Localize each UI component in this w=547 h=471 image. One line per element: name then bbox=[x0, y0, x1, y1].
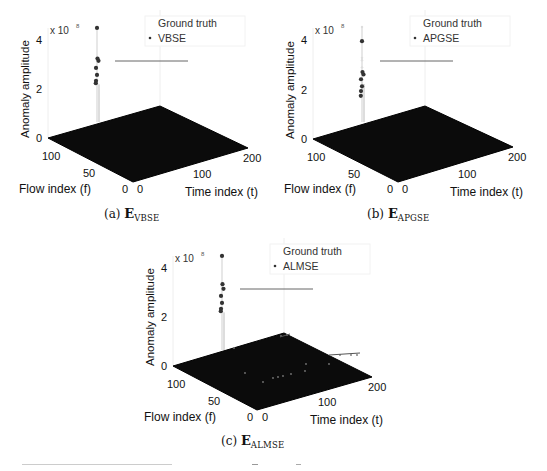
caption-c-prefix: (c) bbox=[221, 434, 237, 448]
z-axis-label: Anomaly amplitude bbox=[19, 40, 31, 138]
estimate-point bbox=[359, 89, 363, 93]
anomaly-plane bbox=[173, 333, 372, 410]
estimate-point bbox=[359, 94, 363, 98]
estimate-point bbox=[220, 301, 224, 305]
marker-dot-icon bbox=[149, 37, 152, 40]
legend-entry-estimate: ALMSE bbox=[283, 260, 319, 272]
z-tick-0: 0 bbox=[301, 133, 307, 145]
z-axis-label: Anomaly amplitude bbox=[144, 268, 156, 366]
time-tick-200: 200 bbox=[243, 152, 261, 164]
z-tick-2: 2 bbox=[161, 311, 167, 323]
caption-b: (b) EAPGSE bbox=[367, 206, 429, 223]
anomaly-plane bbox=[313, 106, 513, 182]
z-multiplier: x 10 bbox=[175, 253, 194, 264]
time-tick-200: 200 bbox=[508, 151, 526, 163]
estimate-point bbox=[219, 309, 223, 313]
time-tick-100: 100 bbox=[318, 396, 336, 408]
estimate-point bbox=[94, 66, 98, 70]
panel-a: Ground truthVBSE024x 108Anomaly amplitud… bbox=[19, 10, 261, 199]
caption-c-subscript: ALMSE bbox=[251, 440, 285, 450]
caption-a-symbol: E bbox=[124, 206, 134, 221]
legend-entry-estimate: VBSE bbox=[158, 32, 186, 44]
z-tick-4: 4 bbox=[161, 262, 167, 274]
panel-b: Ground truthAPGSE024x 108Anomaly amplitu… bbox=[284, 10, 526, 199]
flow-tick-100: 100 bbox=[167, 378, 185, 390]
z-exponent: 8 bbox=[201, 251, 205, 257]
z-axis-label: Anomaly amplitude bbox=[284, 41, 296, 139]
caption-c: (c) EALMSE bbox=[221, 433, 284, 450]
anomaly-plane bbox=[48, 106, 248, 182]
z-tick-4: 4 bbox=[301, 34, 307, 46]
time-tick-100: 100 bbox=[458, 168, 476, 180]
z-tick-0: 0 bbox=[161, 360, 167, 372]
legend-entry-ground-truth: Ground truth bbox=[423, 17, 482, 29]
legend: Ground truthALMSE bbox=[270, 244, 370, 274]
caption-a: (a) EVBSE bbox=[104, 206, 160, 223]
estimate-point bbox=[221, 287, 225, 291]
figure-canvas: Ground truthVBSE024x 108Anomaly amplitud… bbox=[0, 0, 547, 471]
caption-c-symbol: E bbox=[241, 433, 251, 448]
time-tick-0: 0 bbox=[262, 411, 268, 423]
estimate-point bbox=[220, 254, 224, 258]
flow-axis-label: Flow index (f) bbox=[284, 182, 356, 196]
estimate-point bbox=[94, 81, 98, 85]
z-tick-2: 2 bbox=[36, 83, 42, 95]
estimate-point bbox=[95, 26, 99, 30]
estimate-point bbox=[361, 72, 365, 76]
z-multiplier: x 10 bbox=[315, 25, 334, 36]
time-axis-label: Time index (t) bbox=[310, 413, 383, 427]
time-tick-0: 0 bbox=[402, 183, 408, 195]
caption-b-symbol: E bbox=[388, 206, 398, 221]
flow-tick-50: 50 bbox=[348, 168, 360, 180]
caption-b-subscript: APGSE bbox=[398, 213, 430, 223]
legend-entry-ground-truth: Ground truth bbox=[283, 245, 342, 257]
estimate-point bbox=[220, 282, 224, 286]
legend-entry-ground-truth: Ground truth bbox=[158, 17, 217, 29]
estimate-point bbox=[96, 59, 100, 63]
time-axis-label: Time index (t) bbox=[185, 185, 258, 199]
caption-b-prefix: (b) bbox=[367, 207, 384, 221]
caption-a-prefix: (a) bbox=[104, 207, 121, 221]
time-axis-label: Time index (t) bbox=[450, 185, 523, 199]
z-exponent: 8 bbox=[341, 23, 345, 29]
time-tick-100: 100 bbox=[193, 168, 211, 180]
panel-c: Ground truthALMSE024x 108Anomaly amplitu… bbox=[144, 238, 386, 427]
marker-dot-icon bbox=[414, 37, 417, 40]
legend-entry-estimate: APGSE bbox=[423, 32, 459, 44]
estimate-point bbox=[359, 77, 363, 81]
z-tick-4: 4 bbox=[36, 34, 42, 46]
z-tick-0: 0 bbox=[36, 132, 42, 144]
cropped-text-line bbox=[0, 462, 547, 471]
legend: Ground truthVBSE bbox=[145, 16, 245, 46]
flow-axis-label: Flow index (f) bbox=[19, 182, 91, 196]
flow-tick-0: 0 bbox=[122, 183, 128, 195]
legend: Ground truthAPGSE bbox=[410, 16, 510, 46]
flow-tick-50: 50 bbox=[208, 395, 220, 407]
flow-tick-0: 0 bbox=[247, 411, 253, 423]
flow-tick-0: 0 bbox=[387, 183, 393, 195]
z-exponent: 8 bbox=[76, 23, 80, 29]
z-tick-2: 2 bbox=[301, 84, 307, 96]
time-tick-0: 0 bbox=[137, 183, 143, 195]
caption-a-subscript: VBSE bbox=[134, 213, 159, 223]
flow-axis-label: Flow index (f) bbox=[144, 410, 216, 424]
z-multiplier: x 10 bbox=[50, 25, 69, 36]
flow-tick-50: 50 bbox=[83, 167, 95, 179]
flow-tick-100: 100 bbox=[42, 150, 60, 162]
flow-tick-100: 100 bbox=[307, 151, 325, 163]
estimate-point bbox=[360, 84, 364, 88]
estimate-point bbox=[360, 39, 364, 43]
estimate-point bbox=[95, 73, 99, 77]
marker-dot-icon bbox=[274, 265, 277, 268]
time-tick-200: 200 bbox=[368, 381, 386, 393]
estimate-point bbox=[219, 294, 223, 298]
